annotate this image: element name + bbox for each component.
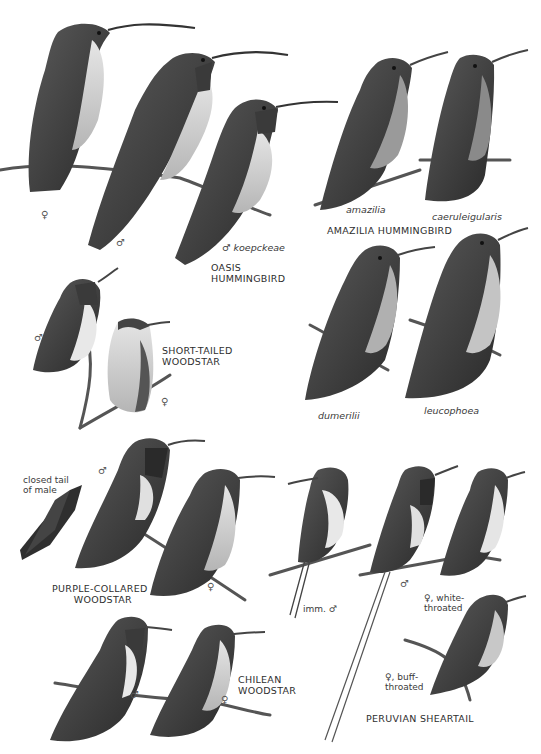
oasis-hummingbird-name: OASIS HUMMINGBIRD — [211, 262, 285, 284]
bird-illustrations — [0, 0, 541, 754]
peruvian-sheartail-name: PERUVIAN SHEARTAIL — [366, 713, 474, 724]
amazilia-caeruleigularis-bird — [425, 50, 528, 201]
short-tailed-woodstar-male-bird — [33, 268, 118, 372]
purple-collared-closed-tail — [20, 485, 82, 560]
sheartail-male-label: ♂ — [400, 579, 409, 589]
sheartail-female-buff-throated-label: ♀, buff- throated — [385, 672, 424, 692]
oasis-koepckeae-label: ♂ koepckeae — [222, 243, 285, 253]
chilean-female-label: ♀ — [221, 695, 228, 705]
chilean-woodstar-male-bird — [50, 617, 172, 742]
peruvian-sheartail-imm-male-bird — [288, 467, 348, 618]
sheartail-female-white-throated-label: ♀, white- throated — [424, 593, 464, 613]
purple-collared-woodstar-name: PURPLE-COLLARED WOODSTAR — [52, 583, 132, 605]
illustration-plate: ♀ ♂ ♂ koepckeae OASIS HUMMINGBIRD amazil… — [0, 0, 541, 754]
amazilia-leucophoea-label: leucophoea — [424, 406, 479, 416]
short-tailed-male-label: ♂ — [34, 333, 43, 343]
amazilia-dumerilii-label: dumerilii — [318, 411, 360, 421]
amazilia-caeruleigularis-label: caeruleigularis — [432, 212, 502, 222]
amazilia-leucophoea-bird — [405, 228, 528, 398]
amazilia-hummingbird-name: AMAZILIA HUMMINGBIRD — [327, 225, 452, 236]
oasis-male-label: ♂ — [116, 238, 125, 248]
purple-collared-male-label: ♂ — [98, 466, 107, 476]
short-tailed-female-label: ♀ — [161, 397, 168, 407]
amazilia-amazilia-label: amazilia — [346, 205, 386, 215]
chilean-woodstar-name: CHILEAN WOODSTAR — [238, 674, 296, 696]
short-tailed-woodstar-name: SHORT-TAILED WOODSTAR — [162, 345, 233, 367]
peruvian-sheartail-female-white-throated-bird — [440, 468, 525, 575]
oasis-female-label: ♀ — [41, 210, 48, 220]
sheartail-imm-male-label: imm. ♂ — [303, 604, 337, 614]
chilean-male-label: ♂ — [130, 690, 139, 700]
purple-collared-female-label: ♀ — [207, 582, 214, 592]
closed-tail-label: closed tail of male — [23, 475, 69, 495]
